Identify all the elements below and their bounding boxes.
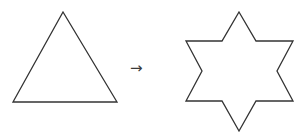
six-pointed-star-shape [186, 12, 293, 131]
figure-svg-canvas [0, 0, 303, 140]
triangle-shape [13, 12, 117, 102]
shape-transformation-figure: → [0, 0, 303, 140]
right-arrow-icon: → [130, 61, 143, 76]
